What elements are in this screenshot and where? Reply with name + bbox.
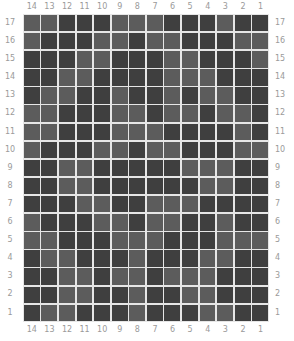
grid-cell[interactable]	[41, 124, 57, 141]
grid-cell[interactable]	[182, 124, 198, 141]
grid-cell[interactable]	[77, 160, 93, 177]
grid-cell[interactable]	[200, 15, 216, 32]
grid-cell[interactable]	[252, 87, 268, 104]
grid-cell[interactable]	[164, 33, 180, 50]
grid-cell[interactable]	[41, 196, 57, 213]
grid-cell[interactable]	[235, 178, 251, 195]
grid-cell[interactable]	[41, 87, 57, 104]
grid-cell[interactable]	[164, 232, 180, 249]
grid-cell[interactable]	[94, 33, 110, 50]
grid-cell[interactable]	[129, 196, 145, 213]
grid-cell[interactable]	[129, 160, 145, 177]
grid-cell[interactable]	[41, 15, 57, 32]
grid-cell[interactable]	[182, 196, 198, 213]
grid-cell[interactable]	[147, 178, 163, 195]
grid-cell[interactable]	[94, 87, 110, 104]
grid-cell[interactable]	[129, 142, 145, 159]
grid-cell[interactable]	[164, 250, 180, 267]
grid-cell[interactable]	[41, 214, 57, 231]
grid-cell[interactable]	[217, 178, 233, 195]
grid-cell[interactable]	[59, 15, 75, 32]
grid-cell[interactable]	[41, 142, 57, 159]
grid-cell[interactable]	[129, 124, 145, 141]
grid-cell[interactable]	[94, 105, 110, 122]
grid-cell[interactable]	[59, 214, 75, 231]
grid-cell[interactable]	[24, 178, 40, 195]
grid-cell[interactable]	[200, 250, 216, 267]
grid-cell[interactable]	[252, 15, 268, 32]
grid-cell[interactable]	[77, 142, 93, 159]
grid-cell[interactable]	[235, 51, 251, 68]
grid-cell[interactable]	[59, 160, 75, 177]
grid-cell[interactable]	[252, 232, 268, 249]
grid-cell[interactable]	[147, 196, 163, 213]
grid-cell[interactable]	[24, 287, 40, 304]
grid-cell[interactable]	[59, 33, 75, 50]
grid-cell[interactable]	[252, 250, 268, 267]
grid-cell[interactable]	[252, 268, 268, 285]
grid-cell[interactable]	[129, 305, 145, 322]
grid-cell[interactable]	[24, 214, 40, 231]
grid-cell[interactable]	[182, 51, 198, 68]
grid-cell[interactable]	[24, 33, 40, 50]
grid-cell[interactable]	[112, 142, 128, 159]
grid-cell[interactable]	[59, 87, 75, 104]
grid-cell[interactable]	[200, 268, 216, 285]
grid-cell[interactable]	[77, 15, 93, 32]
grid-cell[interactable]	[59, 69, 75, 86]
grid-cell[interactable]	[147, 232, 163, 249]
grid-cell[interactable]	[200, 87, 216, 104]
grid-cell[interactable]	[217, 305, 233, 322]
grid-cell[interactable]	[24, 232, 40, 249]
grid-cell[interactable]	[24, 305, 40, 322]
grid-cell[interactable]	[147, 105, 163, 122]
grid-cell[interactable]	[147, 305, 163, 322]
grid-cell[interactable]	[182, 214, 198, 231]
grid-cell[interactable]	[200, 51, 216, 68]
grid-cell[interactable]	[217, 287, 233, 304]
grid-cell[interactable]	[252, 105, 268, 122]
grid-cell[interactable]	[77, 268, 93, 285]
grid-cell[interactable]	[182, 105, 198, 122]
grid-cell[interactable]	[59, 250, 75, 267]
grid-cell[interactable]	[252, 287, 268, 304]
grid-cell[interactable]	[112, 250, 128, 267]
grid-cell[interactable]	[235, 33, 251, 50]
grid-cell[interactable]	[164, 15, 180, 32]
grid-cell[interactable]	[147, 33, 163, 50]
grid-cell[interactable]	[235, 214, 251, 231]
grid-cell[interactable]	[77, 105, 93, 122]
grid-cell[interactable]	[200, 305, 216, 322]
grid-cell[interactable]	[129, 250, 145, 267]
grid-cell[interactable]	[252, 69, 268, 86]
grid-cell[interactable]	[182, 15, 198, 32]
grid-cell[interactable]	[24, 124, 40, 141]
grid-cell[interactable]	[200, 196, 216, 213]
grid-cell[interactable]	[41, 232, 57, 249]
grid-cell[interactable]	[94, 15, 110, 32]
grid-cell[interactable]	[94, 69, 110, 86]
grid-cell[interactable]	[112, 69, 128, 86]
grid-cell[interactable]	[147, 268, 163, 285]
grid-cell[interactable]	[59, 268, 75, 285]
grid-cell[interactable]	[200, 33, 216, 50]
grid-cell[interactable]	[217, 15, 233, 32]
grid-cell[interactable]	[24, 196, 40, 213]
grid-cell[interactable]	[94, 287, 110, 304]
grid-cell[interactable]	[129, 232, 145, 249]
grid-cell[interactable]	[24, 142, 40, 159]
grid-cell[interactable]	[147, 15, 163, 32]
grid-cell[interactable]	[112, 305, 128, 322]
grid-cell[interactable]	[182, 33, 198, 50]
grid-cell[interactable]	[77, 124, 93, 141]
grid-cell[interactable]	[77, 178, 93, 195]
grid-cell[interactable]	[94, 124, 110, 141]
grid-cell[interactable]	[129, 69, 145, 86]
grid-cell[interactable]	[200, 105, 216, 122]
grid-cell[interactable]	[164, 305, 180, 322]
grid-cell[interactable]	[77, 232, 93, 249]
grid-cell[interactable]	[217, 160, 233, 177]
grid-cell[interactable]	[182, 305, 198, 322]
grid-cell[interactable]	[129, 51, 145, 68]
grid-cell[interactable]	[147, 214, 163, 231]
